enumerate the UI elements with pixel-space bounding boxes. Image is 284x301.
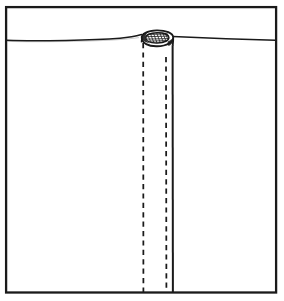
technical-drawing-canvas: Cross-sectional technical line drawing L… xyxy=(0,0,284,301)
tube-right-wall-ellipse-junction xyxy=(173,38,174,46)
figure-root: Cross-sectional technical line drawing L… xyxy=(0,0,284,301)
border-rectangle xyxy=(6,7,276,292)
